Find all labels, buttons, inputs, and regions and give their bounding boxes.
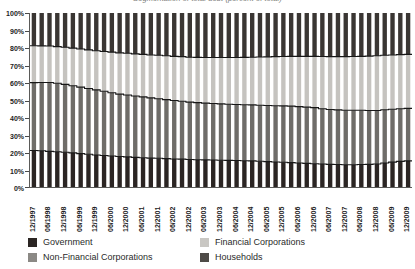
stack-segment [117,94,121,156]
stack-segment [141,97,145,158]
stack-segment [117,53,121,94]
stack-segment [375,13,379,56]
stack-segment [367,13,371,56]
stack-segment [55,83,59,151]
stack-segment [289,163,293,187]
stack-segment [86,13,90,50]
stack-segment [320,109,324,164]
x-axis-tick-label: 06/2005 [263,207,270,232]
x-axis-tick-label: 12/1999 [91,207,98,232]
stack-segment [273,106,277,162]
x-axis-tick-label: 12/2006 [310,207,317,232]
y-axis-tick-label: 60% [0,80,24,87]
stack-segment [203,13,207,58]
stack-segment [383,110,387,163]
y-axis-tick-label: 50% [0,97,24,104]
stack-segment [250,161,254,187]
stack-segment [289,13,293,56]
stack-segment [234,105,238,161]
stack-segment [398,109,402,162]
stack-segment [32,150,36,187]
x-axis-tick-label: 06/2003 [200,207,207,232]
stack-segment [258,105,262,161]
stack-segment [227,160,231,187]
stack-segment [117,13,121,53]
stack-segment [211,58,215,104]
stack-segment [227,104,231,160]
stack-segment [359,56,363,110]
stack-segment [125,13,129,53]
legend-swatch-icon [28,238,37,247]
stack-segment [305,56,309,107]
stack-segment [375,110,379,164]
stack-segment [78,49,82,87]
x-axis-tick-label: 06/2004 [232,207,239,232]
stack-segment [359,110,363,164]
legend-item[interactable]: Non-Financial Corporations [28,251,153,263]
x-axis-tick-label: 06/2006 [294,207,301,232]
stack-segment [398,161,402,187]
legend-item[interactable]: Financial Corporations [200,236,305,248]
stack-segment [227,13,231,58]
stack-segment [195,160,199,187]
stack-segment [55,152,59,187]
stack-segment [390,109,394,162]
legend-label: Non-Financial Corporations [43,252,153,262]
stack-segment [320,57,324,109]
stack-segment [133,54,137,96]
stack-segment [344,13,348,57]
stack-segment [40,13,44,46]
legend-label: Households [215,252,263,262]
stack-segment [156,55,160,99]
x-axis-tick-label: 06/2007 [325,207,332,232]
stack-segment [312,56,316,107]
stack-segment [125,95,129,157]
stack-segment [203,58,207,104]
stack-segment [273,57,277,106]
stack-segment [242,161,246,187]
stack-segment [149,98,153,158]
stack-segment [312,108,316,164]
stack-segment [141,13,145,54]
stack-segment [227,58,231,105]
stack-segment [149,158,153,187]
legend-item[interactable]: Government [28,236,93,248]
stack-segment [406,54,410,108]
stack-segment [102,51,106,91]
y-axis-tick-label: 40% [0,115,24,122]
stack-segment [219,13,223,58]
stack-segment [351,13,355,57]
stack-segment [94,90,98,155]
stack-segment [195,13,199,57]
stack-segment [390,55,394,109]
x-axis-tick-label: 06/1998 [44,207,51,232]
stack-segment [305,13,309,56]
stack-segment [156,99,160,159]
stack-segment [117,157,121,187]
plot-svg [30,13,412,187]
legend-item[interactable]: Households [200,251,263,263]
stack-segment [367,56,371,110]
x-axis-tick-label: 12/1997 [29,207,36,232]
stack-segment [273,162,277,187]
stack-segment [219,58,223,104]
stack-segment [406,161,410,187]
x-axis-tick-label: 06/2000 [107,207,114,232]
stack-segment [78,154,82,187]
stack-segment [328,57,332,110]
stack-segment [188,13,192,57]
x-axis-tick-label: 12/2002 [185,207,192,232]
y-axis: 0%10%20%30%40%50%60%70%80%90%100% [0,13,28,188]
stack-segment [102,156,106,187]
stack-segment [203,103,207,160]
stack-segment [180,159,184,187]
stack-segment [312,164,316,187]
stack-segment [297,13,301,56]
x-axis-tick-label: 12/2001 [154,207,161,232]
stack-segment [375,164,379,187]
stack-segment [281,162,285,187]
stack-segment [133,96,137,157]
stack-segment [40,46,44,83]
legend-swatch-icon [200,253,209,262]
stack-segment [55,13,59,47]
